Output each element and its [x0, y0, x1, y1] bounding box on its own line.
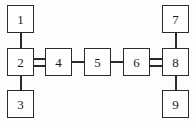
node-2[interactable]: 2	[7, 48, 34, 76]
edge-node6-node8-upper	[149, 58, 163, 60]
node-5[interactable]: 5	[84, 48, 111, 76]
node-4[interactable]: 4	[45, 48, 72, 76]
node-1[interactable]: 1	[7, 5, 34, 33]
edge-node1-node2	[20, 32, 22, 49]
edge-node6-node8-lower	[149, 65, 163, 67]
node-7-label: 7	[172, 13, 179, 26]
node-8[interactable]: 8	[162, 48, 189, 76]
edge-node5-node6	[110, 61, 124, 63]
node-3[interactable]: 3	[7, 90, 34, 118]
block-diagram-canvas: 1 2 3 4 5 6 7 8 9	[0, 0, 196, 122]
node-9-label: 9	[172, 98, 179, 111]
node-2-label: 2	[17, 56, 24, 69]
node-4-label: 4	[55, 56, 62, 69]
node-8-label: 8	[172, 56, 179, 69]
node-3-label: 3	[17, 98, 24, 111]
edge-node4-node5	[71, 61, 85, 63]
edge-node2-node3	[20, 75, 22, 91]
node-1-label: 1	[17, 13, 24, 26]
node-6-label: 6	[133, 56, 140, 69]
node-9[interactable]: 9	[162, 90, 189, 118]
node-5-label: 5	[94, 56, 101, 69]
edge-node7-node8	[175, 32, 177, 49]
node-6[interactable]: 6	[123, 48, 150, 76]
edge-node8-node9	[175, 75, 177, 91]
node-7[interactable]: 7	[162, 5, 189, 33]
